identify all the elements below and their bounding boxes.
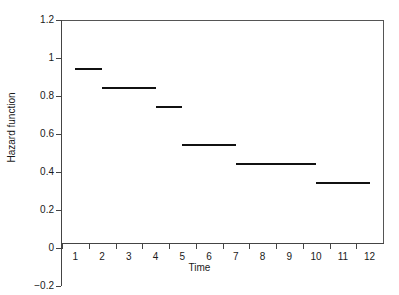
- x-tick-label: 8: [252, 251, 274, 262]
- y-tick-mark: [56, 58, 61, 59]
- x-tick-mark: [62, 244, 63, 249]
- y-tick-label-text: −0.2: [14, 281, 54, 291]
- y-axis-title: Hazard function: [6, 73, 17, 183]
- y-tick-mark: [56, 286, 61, 287]
- step-segment: [156, 106, 183, 108]
- x-tick-mark: [303, 244, 304, 249]
- step-segment: [316, 182, 370, 184]
- step-segment: [182, 144, 236, 146]
- x-tick-mark: [169, 244, 170, 249]
- x-tick-label: 10: [305, 251, 327, 262]
- step-segment: [75, 68, 102, 70]
- x-tick-mark: [89, 244, 90, 249]
- step-segment: [236, 163, 316, 165]
- hazard-function-chart: 1.210.80.60.40.20−0.2 123456789101112 Ti…: [0, 0, 399, 295]
- x-tick-label: 7: [225, 251, 247, 262]
- x-tick-label: 1: [64, 251, 86, 262]
- y-tick-mark: [56, 248, 61, 249]
- x-tick-mark: [330, 244, 331, 249]
- x-tick-label: 2: [91, 251, 113, 262]
- x-tick-mark: [356, 244, 357, 249]
- x-tick-mark: [196, 244, 197, 249]
- y-tick-mark: [56, 96, 61, 97]
- plot-frame-right: [383, 20, 384, 244]
- y-tick-label: 1.2: [8, 15, 54, 25]
- x-tick-label: 6: [198, 251, 220, 262]
- x-tick-label: 12: [359, 251, 381, 262]
- x-tick-mark: [142, 244, 143, 249]
- x-tick-label: 9: [278, 251, 300, 262]
- y-tick-label-text: 1: [14, 53, 54, 63]
- y-tick-label-text: 1.2: [14, 15, 54, 25]
- y-tick-mark: [56, 134, 61, 135]
- x-tick-mark: [223, 244, 224, 249]
- y-tick-label: 0.2: [8, 205, 54, 215]
- x-tick-mark: [116, 244, 117, 249]
- x-tick-mark: [276, 244, 277, 249]
- y-tick-mark: [56, 210, 61, 211]
- step-segment: [102, 87, 156, 89]
- x-tick-label: 11: [332, 251, 354, 262]
- x-tick-mark: [249, 244, 250, 249]
- y-tick-label: −0.2: [8, 281, 54, 291]
- y-tick-label: 0: [8, 243, 54, 253]
- y-tick-mark: [56, 20, 61, 21]
- x-tick-label: 5: [171, 251, 193, 262]
- x-tick-label: 3: [118, 251, 140, 262]
- plot-area: [62, 20, 383, 243]
- y-tick-label-text: 0.2: [14, 205, 54, 215]
- y-tick-label-text: 0.4: [14, 167, 54, 177]
- x-tick-label: 4: [145, 251, 167, 262]
- y-tick-label-text: 0.6: [14, 129, 54, 139]
- y-tick-mark: [56, 172, 61, 173]
- x-axis-title: Time: [0, 262, 399, 273]
- y-tick-label-text: 0: [14, 243, 54, 253]
- y-tick-label-text: 0.8: [14, 91, 54, 101]
- y-tick-label: 1: [8, 53, 54, 63]
